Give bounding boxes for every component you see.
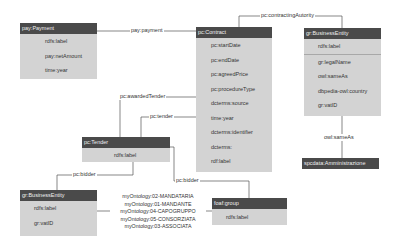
edge-label-pay-payment: pay:payment — [130, 27, 164, 34]
role-label: myOntology:02-MANDATARIA — [110, 193, 206, 201]
node-spcdata-amministrazione[interactable]: spcdata:Amministrazione — [302, 158, 379, 169]
node-attribute: rdfs:label — [212, 209, 287, 225]
node-attribute: pc:startDate — [196, 38, 272, 53]
edge-label-contracting-authority: pc:contractingAutority — [260, 12, 315, 19]
node-attribute: gr:vatID — [304, 98, 381, 113]
node-title: pc:Tender — [82, 137, 170, 148]
node-title: pc:Contract — [196, 27, 272, 38]
node-pc-tender[interactable]: pc:Tender rdfs:label — [82, 137, 170, 162]
node-foaf-group[interactable]: foaf:group rdfs:label — [212, 198, 287, 225]
node-pc-contract[interactable]: pc:Contract pc:startDate pc:endDate pc:a… — [196, 27, 272, 172]
edge-label-awarded-tender: pc:awardedTender — [119, 93, 166, 100]
node-attribute: rdfs:label — [20, 34, 97, 49]
diagram-canvas: pay:Payment rdfs:label pay:netAmount tim… — [0, 0, 401, 249]
edge-label-same-as: owl:sameAs — [323, 134, 355, 141]
role-label: myOntology:03-ASSOCIATA — [110, 223, 206, 231]
role-label: myOntology:01-MANDANTE — [110, 201, 206, 209]
node-attribute: pc:agreedPrice — [196, 67, 272, 82]
node-attribute: rdfs:label — [304, 39, 381, 55]
node-attribute: pc:procedureType — [196, 82, 272, 97]
node-title: foaf:group — [212, 198, 287, 209]
node-attribute: gr:legalName — [304, 55, 381, 70]
role-label: myOntology:05-CONSORZIATA — [110, 216, 206, 224]
edge-label-membership-roles: myOntology:02-MANDATARIA myOntology:01-M… — [110, 193, 206, 231]
node-title: gr:BusinessEntity — [20, 190, 97, 201]
node-attribute: rdfs:label — [20, 201, 97, 216]
node-title: spcdata:Amministrazione — [302, 158, 379, 169]
node-attribute: dcterms:source — [196, 96, 272, 111]
node-attribute: pc:endDate — [196, 53, 272, 68]
node-attribute: rdf:label — [196, 154, 272, 169]
node-attribute: pay:netAmount — [20, 49, 97, 64]
node-attribute: dcterms:identifier — [196, 125, 272, 140]
node-attribute: dbpedia-owl:country — [304, 84, 381, 99]
node-title: gr:BusinessEntity — [304, 28, 381, 39]
node-attribute: time:year — [196, 111, 272, 126]
node-title: pay:Payment — [20, 23, 97, 34]
edge-label-tender: pc:tender — [149, 113, 174, 120]
role-label: myOntology:04-CAPOGRUPPO — [110, 208, 206, 216]
node-attribute: time:year — [20, 63, 97, 78]
node-gr-business-entity-right[interactable]: gr:BusinessEntity rdfs:label gr:legalNam… — [304, 28, 381, 116]
node-attribute: gr:vatID — [20, 216, 97, 231]
node-pay-payment[interactable]: pay:Payment rdfs:label pay:netAmount tim… — [20, 23, 97, 79]
edge-label-bidder-right: pc:bidder — [175, 177, 200, 184]
node-attribute: dcterms: — [196, 140, 272, 155]
edge-label-bidder-left: pc:bidder — [72, 171, 97, 178]
node-attribute: rdfs:label — [82, 148, 170, 162]
node-gr-business-entity-left[interactable]: gr:BusinessEntity rdfs:label gr:vatID — [20, 190, 97, 236]
node-attribute: owl:sameAs — [304, 69, 381, 84]
